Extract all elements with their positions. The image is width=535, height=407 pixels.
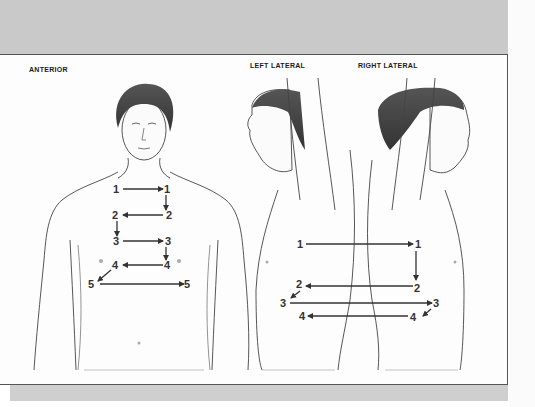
- label-anterior: Anterior: [29, 66, 68, 73]
- arrow-4-to-5: [98, 270, 111, 281]
- label-right-lateral: Right lateral: [358, 62, 418, 69]
- left-lateral-figure: [248, 78, 355, 370]
- lateral-point-2-right: 2: [414, 282, 420, 294]
- anterior-point-5-left: 5: [88, 278, 94, 290]
- anterior-figure: [34, 84, 249, 370]
- lateral-point-4-right: 4: [410, 311, 417, 323]
- lateral-point-3-left: 3: [280, 297, 286, 309]
- lateral-point-1-right: 1: [415, 238, 421, 250]
- anterior-point-1-left: 1: [113, 183, 119, 195]
- anterior-point-4-left: 4: [112, 259, 119, 271]
- right-lateral-figure: [368, 78, 470, 370]
- lateral-point-4-left: 4: [299, 310, 306, 322]
- anterior-point-2-left: 2: [112, 209, 118, 221]
- lateral-numbers: 1 1 2 2 3 3 4 4: [280, 238, 439, 323]
- label-left-lateral: Left lateral: [250, 62, 305, 69]
- lateral-point-2-left: 2: [296, 278, 302, 290]
- anterior-point-3-left: 3: [113, 235, 119, 247]
- lateral-point-1-left: 1: [297, 238, 303, 250]
- anterior-point-3-right: 3: [165, 235, 171, 247]
- anterior-point-2-right: 2: [166, 209, 172, 221]
- lateral-arrow-3-to-4: [423, 309, 431, 316]
- lateral-arrow-2-to-3: [291, 291, 300, 298]
- anterior-point-4-right: 4: [164, 259, 171, 271]
- anterior-numbers: 1 1 2 2 3 3 4 4 5 5: [88, 183, 190, 290]
- anterior-point-1-right: 1: [164, 183, 170, 195]
- anterior-point-5-right: 5: [184, 278, 190, 290]
- lateral-point-3-right: 3: [433, 297, 439, 309]
- lateral-sequence: [290, 244, 432, 316]
